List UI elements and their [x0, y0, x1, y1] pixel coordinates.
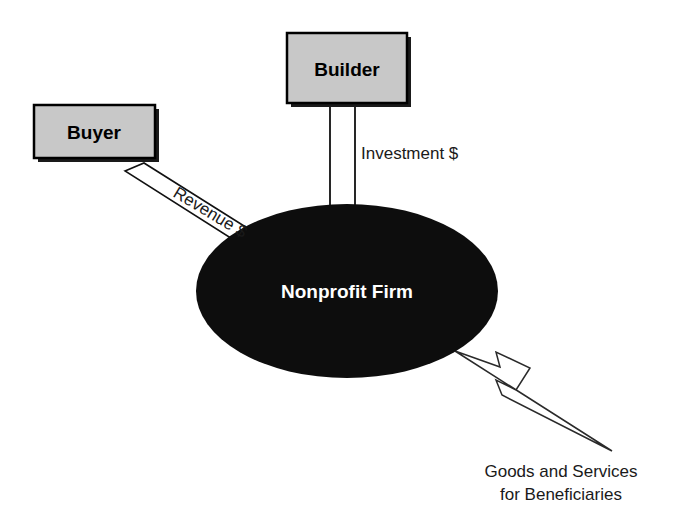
output-arrow-shape [455, 351, 612, 451]
diagram-canvas: Nonprofit Firm Buyer Builder Revenue $ I… [0, 0, 678, 523]
builder-label: Builder [314, 59, 380, 80]
flow-label-output-group: Goods and Services for Beneficiaries [484, 462, 637, 504]
flow-label-revenue: Revenue $ [170, 183, 251, 242]
node-buyer[interactable]: Buyer [34, 105, 159, 162]
flow-label-output-line1: Goods and Services [484, 462, 637, 481]
nonprofit-firm-label: Nonprofit Firm [281, 281, 413, 302]
diagram-svg: Nonprofit Firm Buyer Builder Revenue $ I… [0, 0, 678, 523]
node-builder[interactable]: Builder [287, 33, 411, 107]
flow-label-output-line2: for Beneficiaries [500, 485, 622, 504]
flow-label-investment: Investment $ [361, 144, 459, 163]
buyer-label: Buyer [67, 122, 121, 143]
flow-label-revenue-group: Revenue $ [170, 183, 251, 242]
flow-arrow-output [455, 351, 612, 451]
